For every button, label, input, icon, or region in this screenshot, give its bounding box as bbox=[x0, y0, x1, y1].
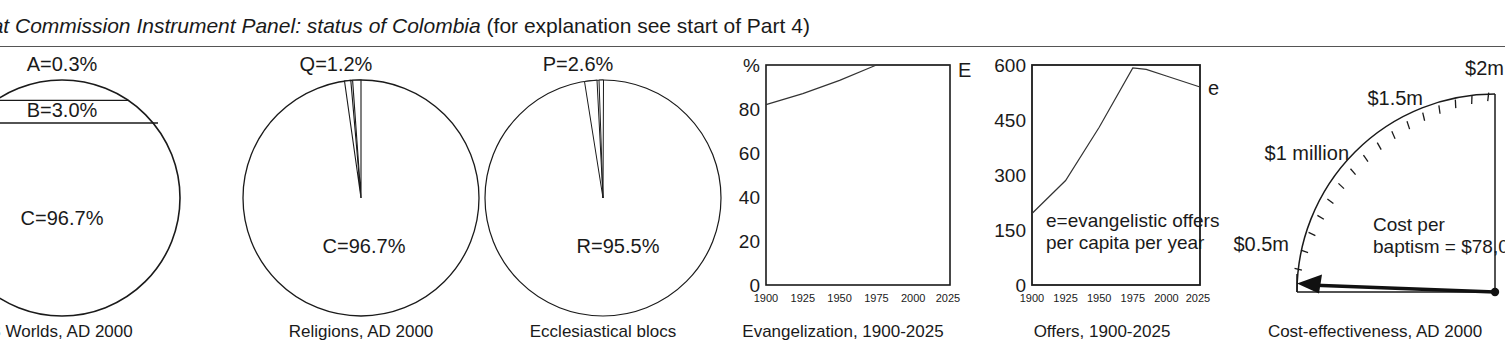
page-title-plain: (for explanation see start of Part 4) bbox=[481, 14, 810, 37]
ytick-60: 60 bbox=[739, 143, 760, 164]
caption-evangelization: Evangelization, 1900-2025 bbox=[718, 322, 968, 342]
xtick-2025: 2025 bbox=[1186, 292, 1210, 304]
ytick-300: 300 bbox=[994, 165, 1026, 186]
xtick-2025: 2025 bbox=[936, 292, 960, 304]
xtick-1925: 1925 bbox=[791, 292, 815, 304]
caption-three-worlds: 3 Worlds, AD 2000 bbox=[0, 322, 242, 342]
xtick-2000: 2000 bbox=[1154, 292, 1178, 304]
gauge-label-05m: $0.5m bbox=[1233, 233, 1289, 255]
ytick-150: 150 bbox=[994, 220, 1026, 241]
gauge-label-2m: $2m bbox=[1465, 57, 1504, 79]
three-worlds-chart: A=0.3% B=3.0% C=96.7% bbox=[0, 55, 242, 315]
offers-chart: 600 450 300 150 0 1900 1925 1950 1975 20… bbox=[972, 55, 1232, 315]
slice-label-c: C=96.7% bbox=[21, 207, 104, 229]
ytick-40: 40 bbox=[739, 187, 760, 208]
panel-evangelization: % 80 60 40 20 0 1900 1925 1950 1975 2000… bbox=[718, 55, 968, 348]
slice-label-r: R=95.5% bbox=[577, 235, 660, 257]
panel-three-worlds: A=0.3% B=3.0% C=96.7% 3 Worlds, AD 2000 bbox=[0, 55, 242, 348]
xtick-2000: 2000 bbox=[901, 292, 925, 304]
caption-ecclesiastical-blocs: Ecclesiastical blocs bbox=[478, 322, 728, 342]
gauge-label-1million: $1 million bbox=[1265, 142, 1349, 164]
ytick-20: 20 bbox=[739, 231, 760, 252]
caption-religions: Religions, AD 2000 bbox=[236, 322, 486, 342]
ytick-100: % bbox=[743, 55, 760, 76]
evangelization-chart: % 80 60 40 20 0 1900 1925 1950 1975 2000… bbox=[718, 55, 968, 315]
ytick-80: 80 bbox=[739, 99, 760, 120]
page-title-italic: eat Commission Instrument Panel: status … bbox=[0, 14, 481, 37]
slice-label-a: A=0.3% bbox=[27, 53, 98, 75]
gauge-arc bbox=[1297, 94, 1495, 292]
panel-religions: Q=1.2% C=96.7% Religions, AD 2000 bbox=[236, 55, 486, 348]
gauge-needle bbox=[1309, 285, 1495, 292]
title-divider bbox=[0, 46, 1505, 47]
gauge-label-15m: $1.5m bbox=[1367, 87, 1423, 109]
gauge-readout-line1: Cost per bbox=[1373, 214, 1445, 235]
panel-ecclesiastical-blocs: P=2.6% R=95.5% Ecclesiastical blocs bbox=[478, 55, 728, 348]
ecclesiastical-blocs-chart: P=2.6% R=95.5% bbox=[478, 55, 728, 315]
xtick-1950: 1950 bbox=[1087, 292, 1111, 304]
series-label-e: e bbox=[1208, 77, 1219, 99]
page-title: eat Commission Instrument Panel: status … bbox=[0, 14, 810, 38]
ytick-450: 450 bbox=[994, 110, 1026, 131]
gauge-needle-arrowhead bbox=[1297, 275, 1322, 294]
cost-effectiveness-gauge: $0.5m $1 million $1.5m $2m Cost per bapt… bbox=[1245, 55, 1505, 315]
xtick-1900: 1900 bbox=[1020, 292, 1044, 304]
panel-cost-effectiveness: $0.5m $1 million $1.5m $2m Cost per bapt… bbox=[1245, 55, 1505, 348]
xtick-1975: 1975 bbox=[864, 292, 888, 304]
series-label-E: E bbox=[958, 59, 971, 81]
ytick-600: 600 bbox=[994, 55, 1026, 76]
offers-annotation-line1: e=evangelistic offers bbox=[1046, 210, 1219, 231]
xtick-1975: 1975 bbox=[1121, 292, 1145, 304]
slice-label-c: C=96.7% bbox=[323, 235, 406, 257]
offers-annotation-line2: per capita per year bbox=[1046, 232, 1205, 253]
panel-offers: 600 450 300 150 0 1900 1925 1950 1975 20… bbox=[972, 55, 1232, 348]
xtick-1950: 1950 bbox=[827, 292, 851, 304]
slice-label-q: Q=1.2% bbox=[300, 53, 373, 75]
xtick-1925: 1925 bbox=[1053, 292, 1077, 304]
slice-label-p: P=2.6% bbox=[543, 53, 614, 75]
caption-offers: Offers, 1900-2025 bbox=[972, 322, 1232, 342]
gauge-readout-line2: baptism = $78,000 bbox=[1373, 236, 1505, 257]
religions-chart: Q=1.2% C=96.7% bbox=[236, 55, 486, 315]
header: eat Commission Instrument Panel: status … bbox=[0, 14, 1505, 40]
slice-label-b: B=3.0% bbox=[27, 99, 98, 121]
plot-frame bbox=[766, 65, 950, 285]
xtick-1900: 1900 bbox=[754, 292, 778, 304]
caption-cost-effectiveness: Cost-effectiveness, AD 2000 bbox=[1245, 322, 1505, 342]
